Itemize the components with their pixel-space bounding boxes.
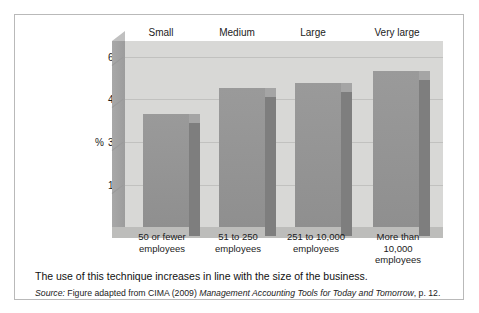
bar-large-front xyxy=(295,83,341,227)
category-label-3-line1: 251 to 10,000 xyxy=(273,231,359,243)
bar-medium[interactable] xyxy=(219,88,265,227)
category-label-1-line1: 50 or fewer xyxy=(121,231,203,243)
category-label-2-line2: employees xyxy=(199,243,277,255)
source-publication-title: Management Accounting Tools for Today an… xyxy=(199,288,414,298)
plot-area xyxy=(125,41,443,227)
bar-large[interactable] xyxy=(295,83,341,227)
bar-medium-side xyxy=(265,97,276,236)
y-axis-label-percent: % xyxy=(95,137,104,148)
bar-medium-top-face xyxy=(265,88,276,97)
category-label-1: 50 or fewer employees xyxy=(121,231,203,254)
series-label-very-large: Very large xyxy=(355,27,439,38)
category-label-3: 251 to 10,000 employees xyxy=(273,231,359,254)
bar-very-large-front xyxy=(373,71,419,227)
bar-small[interactable] xyxy=(143,114,189,227)
category-label-2: 51 to 250 employees xyxy=(199,231,277,254)
bar-small-side xyxy=(189,123,200,236)
plot-left-wall xyxy=(112,41,125,227)
source-post-text: , p. 12. xyxy=(414,288,441,298)
figure-caption: The use of this technique increases in l… xyxy=(35,270,455,282)
bar-medium-front xyxy=(219,88,265,227)
bar-small-top-face xyxy=(189,114,200,123)
source-pre-text: Figure adapted from CIMA (2009) xyxy=(65,288,199,298)
bar-small-front xyxy=(143,114,189,227)
series-label-medium: Medium xyxy=(201,27,273,38)
bar-large-side xyxy=(341,92,352,236)
category-label-4-line3: employees xyxy=(357,254,439,266)
bar-very-large[interactable] xyxy=(373,71,419,227)
category-label-1-line2: employees xyxy=(121,243,203,255)
series-label-large: Large xyxy=(277,27,349,38)
category-label-4-line2: 10,000 xyxy=(357,243,439,255)
gridline-60 xyxy=(125,57,443,58)
category-label-2-line1: 51 to 250 xyxy=(199,231,277,243)
figure-container: 60 45 30 15 0 % Small Medium Large Very … xyxy=(14,14,464,300)
source-label: Source: xyxy=(35,288,65,298)
category-label-4-line1: More than xyxy=(357,231,439,243)
figure-source: Source: Figure adapted from CIMA (2009) … xyxy=(35,288,459,298)
bar-very-large-top-face xyxy=(419,71,430,80)
bar-large-top-face xyxy=(341,83,352,92)
bar-very-large-side xyxy=(419,80,430,236)
category-label-3-line2: employees xyxy=(273,243,359,255)
series-label-small: Small xyxy=(125,27,197,38)
bar-chart: 60 45 30 15 0 % Small Medium Large Very … xyxy=(15,15,465,261)
category-label-4: More than 10,000 employees xyxy=(357,231,439,266)
